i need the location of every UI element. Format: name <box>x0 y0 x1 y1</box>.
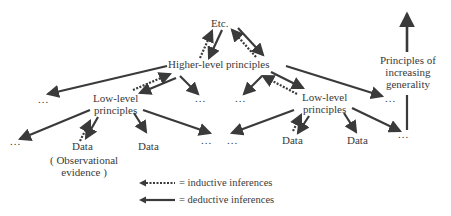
node-etc: Etc. <box>211 17 228 29</box>
legend-inductive-label: = inductive inferences <box>179 177 272 188</box>
label-line: increasing <box>380 66 436 78</box>
node-label-line: Low-level <box>93 92 138 104</box>
node-label-line: principles <box>302 103 347 115</box>
legend-deductive: = deductive inferences <box>139 194 274 205</box>
ellipsis-mid-left: ... <box>195 92 206 104</box>
label-line: generality <box>380 78 436 90</box>
ellipsis-bottom-4: ... <box>398 128 409 140</box>
node-low-level-principles-left: Low-level principles <box>93 92 138 116</box>
ellipsis-bottom-2: ... <box>201 134 212 146</box>
node-data-3: Data <box>282 134 303 146</box>
dashed-arrow-icon <box>139 179 175 187</box>
node-label-line: Low-level <box>302 91 347 103</box>
legend-inductive: = inductive inferences <box>139 177 272 188</box>
generality-label: Principles of increasing generality <box>380 54 436 90</box>
note-line: evidence ) <box>50 166 118 178</box>
node-label-line: principles <box>93 104 138 116</box>
node-higher-level-principles: Higher-level principles <box>168 58 270 70</box>
observational-evidence-note: ( Observational evidence ) <box>50 154 118 178</box>
node-data-4: Data <box>347 134 368 146</box>
ellipsis-mid-right: ... <box>235 92 246 104</box>
node-data-1: Data <box>72 140 93 152</box>
ellipsis-right-upper: ... <box>385 92 396 104</box>
ellipsis-bottom-3: ... <box>227 134 238 146</box>
node-low-level-principles-right: Low-level principles <box>302 91 347 115</box>
note-line: ( Observational <box>50 154 118 166</box>
node-data-2: Data <box>138 140 159 152</box>
legend-deductive-label: = deductive inferences <box>179 194 274 205</box>
label-line: Principles of <box>380 54 436 66</box>
solid-arrow-icon <box>139 196 175 204</box>
ellipsis-bottom-1: ... <box>10 135 21 147</box>
ellipsis-left-upper: ... <box>38 93 49 105</box>
